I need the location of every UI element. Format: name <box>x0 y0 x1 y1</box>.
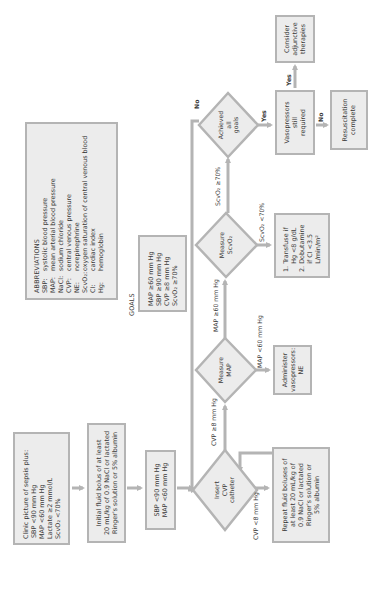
label-line: Achieved <box>217 105 225 145</box>
abbr-key: ScvO₂: <box>81 271 89 293</box>
edge-label-vaso-no: No <box>317 113 324 122</box>
label-line: Insert <box>213 470 221 510</box>
clinic-line: ScvO₂ <70% <box>54 438 62 539</box>
abbreviation-item: CI:cardiac index <box>89 129 97 293</box>
resuscitation-complete-box: Resuscitation complete <box>330 90 368 150</box>
abbr-key: Hg: <box>97 271 105 293</box>
goal-line: ScvO₂ ≥70% <box>171 241 179 306</box>
sbp-line: MAP <60 mm Hg <box>161 463 169 518</box>
vasopressors-required-box: Vasopressors still required <box>275 90 315 155</box>
abbr-value: central venous pressure <box>65 194 73 271</box>
edge-label-scvo2-low: ScvO₂ <70% <box>258 203 265 242</box>
label-line: MAP <box>225 350 233 390</box>
sbp-map-box: SBP <90 mm Hg MAP <60 mm Hg <box>145 450 176 530</box>
abbr-value: cardiac index <box>89 228 97 271</box>
transfuse-line: if CI <3.5 <box>306 219 314 272</box>
abbr-key: NaCl: <box>57 271 65 293</box>
edge-label-cvp-high: CVP ≥8 mm Hg <box>210 398 217 446</box>
abbreviation-item: NE:norepinephrine <box>73 129 81 293</box>
clinic-line: SBP <90 mm Hg <box>30 438 38 539</box>
repeat-line: Repeat fluid boluses of <box>281 458 289 531</box>
label-line: goals <box>232 105 240 145</box>
insert-cvp-label: Insert CVP catheter <box>213 470 236 510</box>
repeat-line: 0.9 NaCl or lactated <box>297 463 305 527</box>
abbr-key: CVP: <box>65 271 73 293</box>
goals-box: MAP ≥60 mm Hg SBP ≥90 mm Hg CVP ≥8 mm Hg… <box>138 235 187 312</box>
adjunct-line: therapies <box>299 24 307 54</box>
transfuse-dobutamine-box: 1. Transfuse if Hg <8 g/dL 2. Dobutamine… <box>274 213 330 278</box>
clinic-line: Lactate ≥2 mmol/L <box>46 438 54 539</box>
administer-line: vasopressors: <box>289 348 297 392</box>
edge-label-scvo2-high: ScvO₂ ≥70% <box>214 167 221 206</box>
abbr-value: systolic blood pressure <box>41 198 49 271</box>
adjunct-line: Consider <box>283 25 291 53</box>
repeat-line: 5% albumin <box>313 476 321 514</box>
abbreviation-item: MAP:mean arterial blood pressure <box>49 129 57 293</box>
abbr-value: oxygen saturation of central venous bloo… <box>81 136 89 271</box>
abbreviation-item: SBP:systolic blood pressure <box>41 129 49 293</box>
edge-label-achieved-yes: Yes <box>260 110 267 122</box>
clinic-line: Clinic picture of sepsis plus: <box>22 438 30 539</box>
goal-line: MAP ≥60 mm Hg <box>147 241 155 306</box>
achieved-goals-label: Achieved all goals <box>217 105 240 145</box>
abbreviation-item: NaCl:sodium chloride <box>57 129 65 293</box>
label-line: ScvO₂ <box>226 225 234 265</box>
edge-label-vaso-yes: Yes <box>285 74 292 86</box>
label-line: catheter <box>228 470 236 510</box>
label-line: Measure <box>218 225 226 265</box>
abbreviations-title: ABBREVIATIONS <box>33 129 41 293</box>
goal-line: SBP ≥90 mm Hg <box>155 241 163 306</box>
abbreviation-item: CVP:central venous pressure <box>65 129 73 293</box>
abbr-key: MAP: <box>49 271 57 293</box>
abbr-key: CI: <box>89 271 97 293</box>
label-line: all <box>225 105 233 145</box>
administer-line: NE <box>297 366 305 375</box>
adjunctive-therapies-box: Consider adjunctive therapies <box>275 15 315 63</box>
clinic-line: MAP <60 mm Hg <box>38 438 46 539</box>
repeat-line: at least 20 mL/kg of <box>289 463 297 527</box>
initial-fluid-box: Initial fluid bolus of at least 20 mL/kg… <box>87 423 126 543</box>
transfuse-line: L/min/m² <box>314 219 322 272</box>
abbr-value: norepinephrine <box>73 222 81 271</box>
clinic-picture-box: Clinic picture of sepsis plus: SBP <90 m… <box>13 432 70 545</box>
abbr-value: sodium chloride <box>57 220 65 271</box>
abbreviations-box: ABBREVIATIONS SBP:systolic blood pressur… <box>25 122 118 300</box>
abbr-key: SBP: <box>41 271 49 293</box>
edge-label-cvp-low: CVP <8 mm Hg <box>252 492 259 540</box>
administer-line: Administer <box>281 353 289 388</box>
measure-map-label: Measure MAP <box>217 350 232 390</box>
fluid-line: Ringer's solution or 5% albumin <box>111 432 119 534</box>
abbr-value: mean arterial blood pressure <box>49 178 57 271</box>
label-line: CVP <box>221 470 229 510</box>
abbr-value: hemoglobin <box>97 233 105 271</box>
edge-label-achieved-no: No <box>193 100 200 109</box>
vaso-line: still <box>291 117 299 128</box>
label-line: Measure <box>217 350 225 390</box>
sepsis-flowchart: Clinic picture of sepsis plus: SBP <90 m… <box>0 0 371 606</box>
administer-vasopressors-box: Administer vasopressors: NE <box>273 345 312 395</box>
fluid-line: 20 mL/kg of 0.9 NaCl or lactated <box>103 431 111 535</box>
fluid-line: Initial fluid bolus of at least <box>95 440 103 527</box>
abbreviation-item: Hg:hemoglobin <box>97 129 105 293</box>
vaso-line: required <box>299 109 307 136</box>
resus-line: Resuscitation <box>341 99 349 142</box>
edge-label-map-high: MAP ≥60 mm Hg <box>212 279 219 332</box>
arrow-achieved-no-loop <box>188 121 199 490</box>
measure-scvo2-label: Measure ScvO₂ <box>218 225 233 265</box>
transfuse-line: 2. Dobutamine <box>298 219 306 272</box>
goal-line: CVP ≥8 mm Hg <box>163 241 171 306</box>
transfuse-line: Hg <8 g/dL <box>290 219 298 272</box>
transfuse-line: 1. Transfuse if <box>282 219 290 272</box>
abbreviation-item: ScvO₂:oxygen saturation of central venou… <box>81 129 89 293</box>
repeat-line: Ringer's solution or <box>305 464 313 526</box>
repeat-fluid-box: Repeat fluid boluses of at least 20 mL/k… <box>272 447 330 543</box>
adjunct-line: adjunctive <box>291 22 299 55</box>
arrow-repeat-loop <box>240 453 272 471</box>
abbr-key: NE: <box>73 271 81 293</box>
resus-line: complete <box>349 105 357 135</box>
vaso-line: Vasopressors <box>283 101 291 143</box>
goals-title: GOALS <box>128 293 136 316</box>
edge-label-map-low: MAP <60 mm Hg <box>256 315 263 368</box>
sbp-line: SBP <90 mm Hg <box>153 463 161 516</box>
